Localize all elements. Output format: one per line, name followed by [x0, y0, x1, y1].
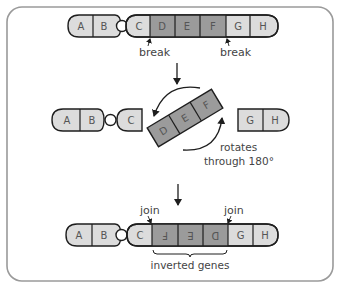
gene-h: H	[261, 230, 269, 241]
gene-c: C	[128, 115, 135, 126]
gene-g: G	[237, 230, 245, 241]
gene-g: G	[234, 21, 242, 32]
break-label-left: break	[139, 46, 171, 59]
gene-a: A	[78, 21, 85, 32]
gene-a: A	[76, 230, 83, 241]
gene-c: C	[137, 230, 144, 241]
gene-e: E	[184, 21, 190, 32]
chromosome-original: A B C D E F G H	[68, 15, 278, 37]
inverted-genes-label: inverted genes	[151, 259, 230, 271]
gene-b: B	[89, 115, 96, 126]
fragment-right: G H	[238, 109, 289, 131]
join-label-right: join	[223, 204, 244, 217]
rotate-label-line2: through 180°	[204, 155, 274, 167]
gene-b: B	[101, 21, 108, 32]
gene-c: C	[136, 21, 143, 32]
gene-h: H	[259, 21, 267, 32]
fragment-left: A B C	[52, 109, 142, 131]
centromere-icon	[116, 230, 127, 241]
gene-g: G	[246, 115, 254, 126]
join-label-left: join	[139, 204, 160, 217]
chromosome-inverted: A B C F E D G H	[66, 224, 278, 246]
gene-h: H	[271, 115, 279, 126]
gene-a: A	[64, 115, 71, 126]
inversion-diagram: A B C D E F G H break break A B C D E F …	[0, 0, 346, 290]
gene-b: B	[101, 230, 108, 241]
rotate-label-line1: rotates	[220, 141, 257, 153]
gene-f: F	[210, 21, 216, 32]
gene-e-inverted: E	[187, 230, 193, 241]
gene-f-inverted: F	[162, 230, 168, 241]
gene-d: D	[158, 21, 166, 32]
centromere-icon	[105, 115, 116, 126]
break-label-right: break	[220, 46, 252, 59]
gene-d-inverted: D	[211, 230, 219, 241]
